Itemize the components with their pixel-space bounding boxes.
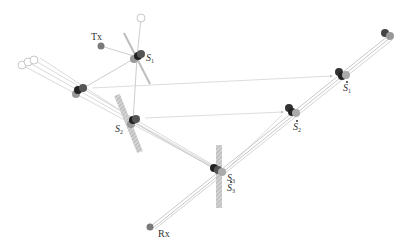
s1-sub: 1 — [151, 58, 154, 64]
s3-image-base: S — [227, 182, 232, 193]
rx-node — [147, 224, 154, 231]
point-s1-image — [335, 68, 350, 80]
s2-label: S2 — [115, 123, 123, 135]
reflection-diagram: Tx Rx S1 S2 S3 S3 S1 S2 — [0, 0, 414, 249]
s2-image-base: S — [293, 121, 298, 132]
s1-image-base: S — [343, 82, 348, 93]
tx-label: Tx — [91, 31, 102, 42]
point-far-image — [381, 29, 394, 40]
ghost-points — [18, 14, 145, 69]
s2-image-sub: 2 — [298, 127, 301, 133]
virtual-lines-left — [22, 58, 218, 170]
s1-image-label: S1 — [343, 82, 351, 94]
s2-image-label: S2 — [293, 121, 301, 133]
s1-image-sub: 1 — [348, 88, 351, 94]
s3-image-label: S3 — [227, 182, 235, 194]
point-s2-image — [285, 104, 300, 117]
s3-image-sub: 3 — [232, 188, 235, 194]
point-left-image — [72, 84, 87, 98]
diagram-canvas — [0, 0, 414, 249]
image-line — [151, 36, 392, 229]
rx-label: Rx — [158, 228, 170, 239]
tx-node — [98, 43, 105, 50]
s1-label: S1 — [146, 52, 154, 64]
s2-sub: 2 — [120, 129, 123, 135]
